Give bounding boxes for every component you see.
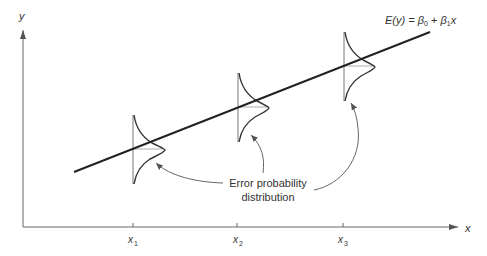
annotation-line-2: distribution [241,191,294,203]
tick-label-x2: x 2 [232,234,243,247]
error-distribution-1 [133,115,165,184]
x-axis-label: x [464,222,471,234]
svg-text:x: x [232,234,239,245]
tick-label-x3: x 3 [337,234,348,247]
annotation-line-1: Error probability [229,177,307,189]
tick-label-x1: x 1 [127,234,138,247]
arrow-to-distribution-1 [156,163,223,183]
y-axis-label: y [18,10,26,22]
error-distribution-2 [238,73,269,142]
svg-text:2: 2 [239,240,243,247]
error-distribution-3 [344,32,375,101]
regression-equation: E(y) = β0 + β1x [385,14,457,27]
svg-text:x: x [337,234,344,245]
svg-text:3: 3 [344,240,348,247]
regression-diagram: y x x 1 x 2 x 3 E(y) = β0 + β1x E [0,0,487,256]
x-axis [23,223,458,227]
svg-text:x: x [127,234,134,245]
svg-text:1: 1 [134,240,138,247]
arrow-to-distribution-3 [314,103,358,190]
regression-line [74,32,430,172]
arrow-to-distribution-2 [251,135,264,173]
